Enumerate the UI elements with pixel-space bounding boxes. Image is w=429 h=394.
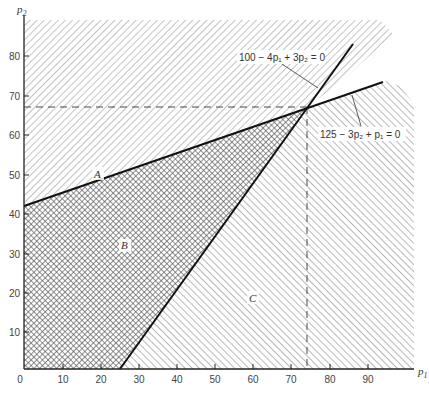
svg-text:90: 90 <box>362 374 374 385</box>
region-c-label: C <box>249 292 257 304</box>
equation-1-label: 100 − 4p₁ + 3p₂ = 0 <box>239 52 325 63</box>
region-a-label: A <box>93 168 101 180</box>
svg-text:60: 60 <box>9 130 21 141</box>
svg-text:30: 30 <box>9 249 21 260</box>
svg-text:80: 80 <box>324 374 336 385</box>
region-b-label: B <box>121 239 128 251</box>
chart-canvas: 10 20 30 40 50 60 70 80 0 10 20 30 40 50… <box>0 0 429 394</box>
x-axis-label: p1 <box>417 365 428 380</box>
svg-text:60: 60 <box>247 374 259 385</box>
svg-text:10: 10 <box>9 327 21 338</box>
svg-text:20: 20 <box>95 374 107 385</box>
svg-text:70: 70 <box>9 91 21 102</box>
svg-text:0: 0 <box>17 374 23 385</box>
equation-2-label: 125 − 3p₂ + p₁ = 0 <box>320 129 401 140</box>
svg-text:40: 40 <box>171 374 183 385</box>
svg-text:40: 40 <box>9 209 21 220</box>
svg-text:70: 70 <box>285 374 297 385</box>
y-tick-labels: 10 20 30 40 50 60 70 80 <box>9 51 21 338</box>
y-axis-label: p2 <box>16 3 27 18</box>
x-tick-labels: 0 10 20 30 40 50 60 70 80 90 <box>17 374 374 385</box>
svg-text:80: 80 <box>9 51 21 62</box>
svg-text:20: 20 <box>9 288 21 299</box>
svg-text:10: 10 <box>57 374 69 385</box>
svg-text:30: 30 <box>133 374 145 385</box>
svg-text:50: 50 <box>209 374 221 385</box>
svg-text:50: 50 <box>9 170 21 181</box>
